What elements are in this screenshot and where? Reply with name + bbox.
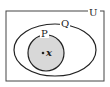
venn-diagram: U Q P x bbox=[0, 0, 110, 87]
set-p-label: P bbox=[41, 28, 48, 39]
element-label: x bbox=[45, 47, 53, 58]
universe-label: U bbox=[89, 7, 97, 18]
set-q-label: Q bbox=[61, 18, 69, 29]
element-point bbox=[42, 52, 45, 55]
